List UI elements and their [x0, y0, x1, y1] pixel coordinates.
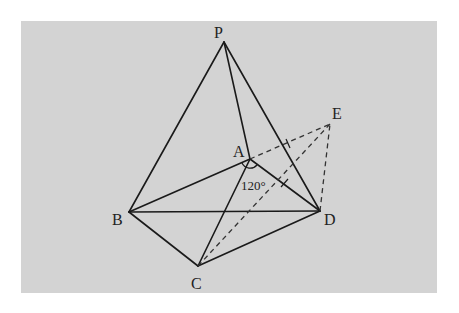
point-label-E: E: [332, 105, 342, 122]
point-label-D: D: [324, 211, 336, 228]
point-label-C: C: [191, 275, 202, 292]
angle-label: 120°: [241, 178, 266, 193]
edge-BD: [129, 211, 320, 212]
point-label-B: B: [112, 211, 123, 228]
point-label-A: A: [233, 143, 245, 160]
point-label-P: P: [214, 24, 223, 41]
pyramid-diagram: 120° P A B C D E: [0, 0, 459, 313]
